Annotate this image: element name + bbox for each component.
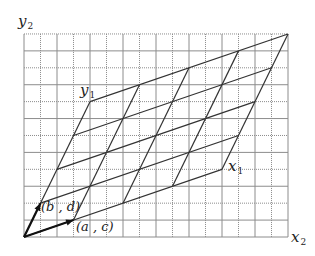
arrowhead-icon — [66, 220, 74, 226]
y1-axis-label: y1 — [80, 83, 95, 100]
vector-label-ac: (a , c) — [76, 220, 114, 233]
x2-axis-label: x2 — [291, 230, 306, 247]
x1-axis-label: x1 — [228, 159, 243, 176]
lattice-line — [74, 68, 272, 136]
lattice-diagram — [0, 0, 315, 256]
vector-label-bd: (b , d) — [41, 200, 80, 213]
y2-axis-label: y2 — [18, 14, 33, 31]
